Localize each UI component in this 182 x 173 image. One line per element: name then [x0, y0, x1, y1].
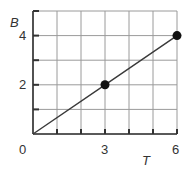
- x-tick-label-3: 3: [101, 143, 108, 156]
- x-axis-label: T: [142, 154, 150, 167]
- origin-label: 0: [19, 143, 26, 156]
- line-chart: [0, 0, 182, 173]
- data-point-marker: [101, 80, 110, 89]
- y-tick-label-4: 4: [19, 29, 26, 42]
- data-series: [33, 31, 182, 134]
- x-tick-label-6: 6: [172, 143, 179, 156]
- y-tick-label-2: 2: [19, 78, 26, 91]
- grid-lines: [33, 11, 177, 134]
- y-axis-label: B: [10, 16, 19, 29]
- data-point-marker: [173, 31, 182, 40]
